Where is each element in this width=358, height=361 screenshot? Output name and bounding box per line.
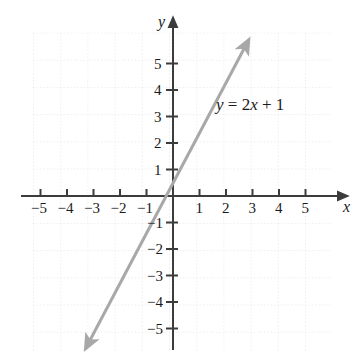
y-tick-label--2: −2: [147, 242, 163, 257]
y-tick-label--5: −5: [147, 322, 163, 337]
y-axis-label: y: [158, 14, 165, 30]
x-tick-label--5: −5: [31, 201, 47, 216]
equation-lhs: y: [216, 95, 224, 114]
y-tick-label-1: 1: [154, 163, 162, 178]
y-tick-label-4: 4: [154, 83, 162, 98]
y-tick-label-3: 3: [154, 110, 162, 125]
x-tick-label-4: 4: [275, 201, 283, 216]
graph-figure: −5 −4 −3 −2 −1 1 2 3 4 5 5 4 3 2 1 −1 −2…: [0, 0, 358, 361]
equation-variable: x: [250, 95, 258, 114]
x-axis-label: x: [343, 199, 350, 215]
y-tick-label-5: 5: [154, 57, 162, 72]
x-tick-label-5: 5: [302, 201, 310, 216]
x-tick-label--1: −1: [137, 201, 153, 216]
grid: [33, 33, 331, 353]
equation-intercept: 1: [276, 95, 285, 114]
equation-plus: +: [262, 95, 272, 114]
equation-coefficient: 2: [242, 95, 251, 114]
x-tick-label--3: −3: [84, 201, 100, 216]
y-tick-label-2: 2: [154, 136, 162, 151]
x-tick-label-3: 3: [249, 201, 257, 216]
y-tick-label--1: −1: [147, 216, 163, 231]
x-tick-label-1: 1: [196, 201, 204, 216]
y-tick-label--4: −4: [147, 295, 163, 310]
coordinate-plane: [0, 0, 358, 361]
x-tick-label--2: −2: [111, 201, 127, 216]
y-tick-label--3: −3: [147, 269, 163, 284]
x-tick-label-2: 2: [222, 201, 230, 216]
equation-equals: =: [228, 95, 238, 114]
equation-annotation: y = 2x + 1: [216, 96, 284, 113]
x-tick-label--4: −4: [58, 201, 74, 216]
